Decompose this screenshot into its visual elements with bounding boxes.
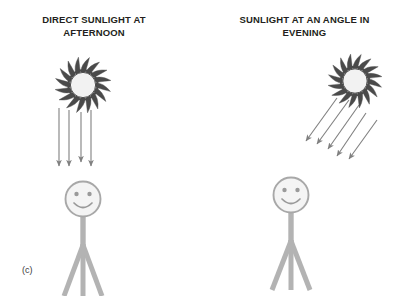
diagonal-arrow-icon	[328, 105, 359, 149]
stick-figure-eye-left	[74, 192, 78, 196]
sun-core	[70, 72, 95, 97]
stick-figure-evening	[272, 178, 310, 291]
light-rays-afternoon	[59, 108, 91, 166]
stick-figure-eye-right	[295, 188, 299, 192]
stick-figure-leg-left	[272, 241, 291, 290]
diagonal-arrow-icon	[349, 120, 377, 159]
stick-figure-eye-right	[87, 192, 91, 196]
stick-figure-eye-left	[282, 188, 286, 192]
diagram-canvas	[0, 0, 406, 296]
sun-core	[343, 69, 367, 93]
stick-figure-afternoon	[64, 182, 102, 296]
sun-icon	[326, 52, 384, 110]
diagonal-arrow-icon	[337, 113, 366, 156]
sun-icon	[53, 55, 113, 115]
stick-figure-head	[66, 182, 101, 217]
stick-figure-head	[274, 178, 309, 213]
stick-figure-leg-right	[291, 241, 310, 290]
stick-figure-leg-right	[83, 245, 102, 296]
sun-icon-evening	[326, 52, 384, 110]
figure-caption: (c)	[22, 265, 33, 275]
stick-figure-leg-left	[64, 245, 83, 296]
figure-root: DIRECT SUNLIGHT AT AFTERNOON SUNLIGHT AT…	[0, 0, 406, 296]
sun-icon-afternoon	[53, 55, 113, 115]
